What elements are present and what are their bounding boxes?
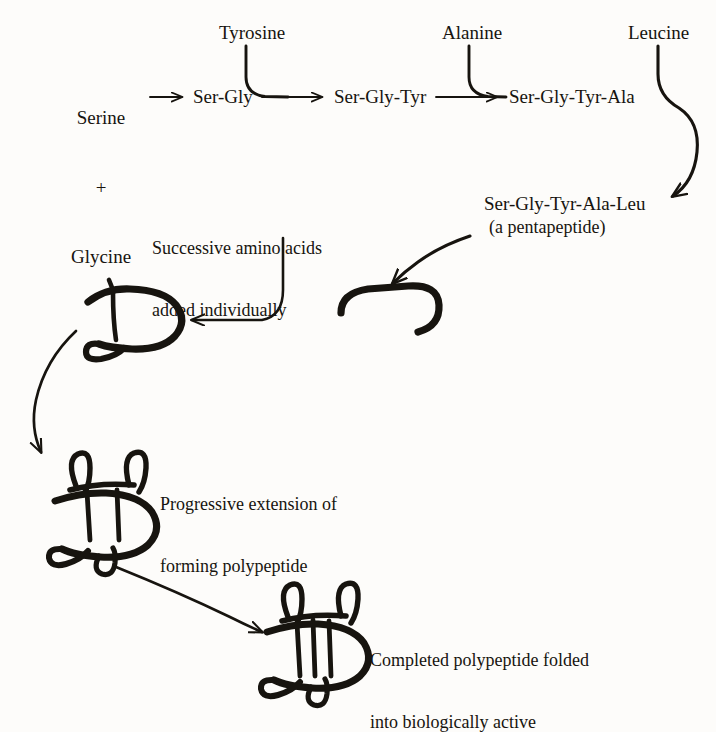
arrow-successive-amino-acids xyxy=(192,238,283,320)
feed-curve-tyrosine xyxy=(246,46,288,97)
protein-synthesis-diagram: Serine + Glycine Ser-Gly Ser-Gly-Tyr Ser… xyxy=(0,0,716,732)
chain-folding-medium xyxy=(49,452,157,574)
diagram-vector-layer xyxy=(0,0,716,732)
chain-folded-completed xyxy=(261,583,369,705)
feed-curve-leucine xyxy=(658,46,697,196)
feed-curve-alanine xyxy=(469,46,506,97)
chain-folding-small xyxy=(86,280,182,359)
arrow-small-fold-to-medium-fold xyxy=(34,331,76,452)
arrow-pentapeptide-to-chain xyxy=(393,236,470,283)
chain-nascent-hook xyxy=(341,286,439,332)
arrow-medium-fold-to-completed xyxy=(116,567,262,632)
